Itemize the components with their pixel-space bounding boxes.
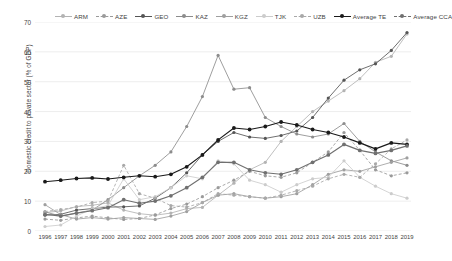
data-point xyxy=(185,203,188,206)
data-point xyxy=(311,110,314,113)
y-axis-tick-label: 30 xyxy=(24,138,31,145)
legend-item-tjk[interactable]: TJK xyxy=(256,13,286,20)
data-point xyxy=(263,171,267,175)
x-axis-tick-label: 2008 xyxy=(227,234,240,240)
data-point xyxy=(169,194,173,198)
data-point xyxy=(280,140,283,143)
series-line-geo xyxy=(45,33,407,216)
data-point xyxy=(169,212,172,215)
data-point xyxy=(327,173,330,176)
x-axis-tick-label: 2010 xyxy=(259,234,272,240)
data-point xyxy=(342,79,345,82)
legend-item-arm[interactable]: ARM xyxy=(55,13,88,20)
series-line-average-te xyxy=(45,122,407,182)
data-point xyxy=(232,88,235,91)
x-axis-tick-label: 2001 xyxy=(117,234,130,240)
data-point xyxy=(106,206,110,210)
data-point xyxy=(232,131,235,134)
data-point xyxy=(405,197,408,200)
data-point xyxy=(122,209,125,212)
data-point xyxy=(405,171,408,174)
data-point xyxy=(43,218,46,221)
legend-item-kgz[interactable]: KGZ xyxy=(216,13,248,20)
data-point xyxy=(405,144,409,148)
x-axis-tick-label: 2011 xyxy=(275,234,288,240)
data-point xyxy=(43,212,47,216)
legend-item-kaz[interactable]: KAZ xyxy=(176,13,207,20)
data-point xyxy=(169,150,172,153)
legend-item-uzb[interactable]: UZB xyxy=(294,13,326,20)
series-line-arm xyxy=(45,34,407,215)
data-point xyxy=(201,95,204,98)
data-point xyxy=(280,125,283,128)
data-point xyxy=(185,125,188,128)
data-point xyxy=(358,77,361,80)
data-point xyxy=(91,201,94,204)
data-point xyxy=(311,135,314,138)
data-point xyxy=(295,183,298,186)
legend-item-label: UZB xyxy=(313,13,326,20)
data-point xyxy=(154,218,157,221)
data-point xyxy=(122,205,125,208)
data-point xyxy=(264,161,267,164)
data-point xyxy=(43,180,47,184)
data-point xyxy=(374,152,378,156)
data-point xyxy=(59,223,62,226)
legend-swatch-icon xyxy=(394,13,411,20)
data-point xyxy=(138,217,141,220)
data-point xyxy=(75,218,78,221)
x-axis-tick-label: 2004 xyxy=(164,234,177,240)
legend-item-label: KGZ xyxy=(235,13,248,20)
data-point xyxy=(342,173,345,176)
plot-area: 010203040506070 xyxy=(35,22,411,231)
data-point xyxy=(374,185,377,188)
data-point xyxy=(169,207,172,210)
data-point xyxy=(264,137,267,140)
y-axis-tick-label: 70 xyxy=(24,19,31,26)
data-point xyxy=(201,201,204,204)
data-point xyxy=(201,206,204,209)
legend-item-geo[interactable]: GEO xyxy=(135,13,168,20)
legend-item-label: KAZ xyxy=(195,13,207,20)
data-point xyxy=(264,116,267,119)
data-point xyxy=(389,149,393,153)
data-point xyxy=(280,191,283,194)
data-point xyxy=(232,160,236,164)
data-point xyxy=(59,214,63,218)
x-axis-tick-label: 2016 xyxy=(353,234,366,240)
data-point xyxy=(311,160,315,164)
y-axis-tick-label: 20 xyxy=(24,168,31,175)
x-axis-tick-label: 2015 xyxy=(337,234,350,240)
data-point xyxy=(342,122,345,125)
data-point xyxy=(185,186,189,190)
data-point xyxy=(232,194,235,197)
data-point xyxy=(327,97,330,100)
data-point xyxy=(201,153,205,157)
data-point xyxy=(216,138,220,142)
x-axis-tick-label: 2019 xyxy=(400,234,413,240)
data-point xyxy=(390,174,393,177)
legend-item-average-te[interactable]: Average TE xyxy=(334,13,386,20)
data-point xyxy=(91,216,94,219)
data-point xyxy=(217,54,220,57)
data-point xyxy=(185,206,188,209)
data-point xyxy=(75,177,79,181)
data-point xyxy=(43,225,46,228)
legend-swatch-icon xyxy=(256,13,273,20)
data-point xyxy=(342,131,345,134)
data-point xyxy=(326,153,330,157)
data-point xyxy=(248,86,251,89)
data-point xyxy=(75,206,78,209)
data-point xyxy=(169,215,172,218)
legend-item-aze[interactable]: AZE xyxy=(96,13,127,20)
data-point xyxy=(106,177,110,181)
data-point xyxy=(358,149,362,153)
data-point xyxy=(43,203,46,206)
series-line-kaz xyxy=(45,55,407,216)
x-axis-tick-label: 2012 xyxy=(290,234,303,240)
legend-item-label: AZE xyxy=(115,13,127,20)
data-point xyxy=(59,208,62,211)
legend-item-average-cca[interactable]: Average CCA xyxy=(394,13,452,20)
x-axis-tick-label: 2005 xyxy=(180,234,193,240)
data-point xyxy=(390,192,393,195)
